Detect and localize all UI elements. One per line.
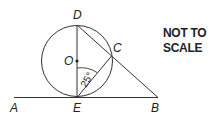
label-c: C [113,41,122,55]
angle-label: 25° [78,70,95,89]
geometry-diagram: 25° D C O A E B [0,0,214,118]
note-line-2: SCALE [163,41,206,56]
centre-point-o [75,59,78,62]
label-o: O [64,54,73,68]
not-to-scale-note: NOT TO SCALE [163,26,206,56]
line-db [77,25,158,98]
note-line-1: NOT TO [163,26,206,41]
label-d: D [73,8,82,22]
label-a: A [9,101,18,115]
label-b: B [151,101,159,115]
label-e: E [73,101,82,115]
